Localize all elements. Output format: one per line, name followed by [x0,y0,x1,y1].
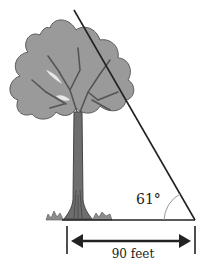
distance-label: 90 feet [112,247,155,261]
hypotenuse-line [74,10,195,220]
angle-label: 61° [136,191,161,207]
tree-triangle-diagram: 61° 90 feet [0,0,204,262]
tree-canopy [10,20,134,119]
angle-arc [164,194,180,220]
distance-arrow [71,234,191,248]
